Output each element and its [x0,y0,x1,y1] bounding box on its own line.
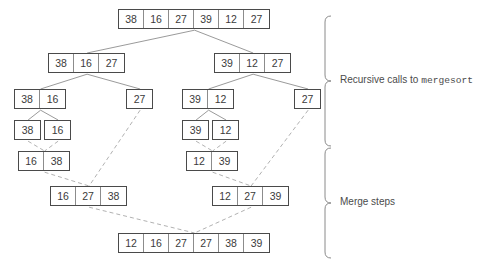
array-cell: 12 [213,121,238,139]
annotation-merge-text: Merge steps [340,196,395,207]
brace-merge-steps [325,148,331,258]
array-node-root: 381627391227 [118,9,270,29]
array-cell: 16 [40,90,65,108]
array-cell: 38 [219,234,244,252]
array-cell: 12 [119,234,144,252]
array-cell: 27 [169,234,194,252]
array-cell: 27 [76,187,101,205]
edge-merge [28,141,44,151]
array-cell: 16 [51,187,76,205]
edge-split [209,110,227,120]
array-cell: 38 [101,187,126,205]
array-cell: 38 [44,152,69,170]
array-cell: 38 [15,121,40,139]
array-cell: 39 [212,152,237,170]
array-cell: 27 [238,187,263,205]
edge-merge [45,172,90,186]
array-cell: 39 [215,54,240,72]
array-cell: 39 [194,10,219,28]
array-cell: 39 [244,234,269,252]
array-cell: 16 [144,234,169,252]
edge-split [195,30,254,53]
array-node-L2-d: 27 [294,89,321,109]
edge-split [87,74,140,89]
annotation-recursive-prefix: Recursive calls to [340,74,421,85]
edge-merge [196,141,213,151]
array-node-L3-b: 16 [44,120,71,140]
array-cell: 38 [15,90,40,108]
edge-merge [195,207,252,233]
array-node-M1-left: 1638 [18,151,70,171]
array-cell: 27 [244,10,269,28]
array-cell: 39 [263,187,288,205]
array-cell: 16 [19,152,44,170]
edge-split [41,110,59,120]
array-cell: 16 [74,54,99,72]
array-node-L3-a: 38 [14,120,41,140]
edge-merge [251,110,308,186]
array-cell: 16 [45,121,70,139]
mergesort-diagram: 3816273912273816273912273816273912273816… [0,0,491,269]
array-node-M3-final: 121627273839 [118,233,270,253]
annotation-merge-steps: Merge steps [340,196,395,208]
array-node-L3-c: 39 [182,120,209,140]
array-node-L1-left: 381627 [48,53,125,73]
array-cell: 12 [219,10,244,28]
annotation-recursive-code: mergesort [421,75,473,86]
array-cell: 27 [99,54,124,72]
array-cell: 27 [169,10,194,28]
edge-split [28,110,40,120]
array-cell: 39 [183,90,208,108]
edge-split [41,74,88,89]
edge-merge [213,141,227,151]
edge-split [253,74,308,89]
array-node-L3-d: 12 [212,120,239,140]
edge-merge [89,110,140,186]
array-node-L2-c: 3912 [182,89,234,109]
array-cell: 27 [295,90,320,108]
array-cell: 16 [144,10,169,28]
brace-layer [0,0,491,269]
array-node-M1-right: 1239 [186,151,238,171]
array-node-L2-b: 27 [126,89,153,109]
edge-merge [89,207,195,233]
edge-merge [45,141,59,151]
array-cell: 38 [119,10,144,28]
array-cell: 38 [49,54,74,72]
array-cell: 27 [127,90,152,108]
array-node-M2-left: 162738 [50,186,127,206]
edge-merge [213,172,252,186]
array-node-M2-right: 122739 [212,186,289,206]
edge-split [87,30,195,53]
array-cell: 12 [208,90,233,108]
brace-recursive-calls [325,16,331,146]
array-cell: 12 [187,152,212,170]
edge-split [196,110,209,120]
array-node-L1-right: 391227 [214,53,291,73]
annotation-recursive-calls: Recursive calls to mergesort [340,74,473,87]
array-cell: 12 [240,54,265,72]
edge-layer [0,0,491,269]
array-cell: 39 [183,121,208,139]
array-node-L2-a: 3816 [14,89,66,109]
edge-split [209,74,254,89]
array-cell: 27 [265,54,290,72]
array-cell: 12 [213,187,238,205]
array-cell: 27 [194,234,219,252]
